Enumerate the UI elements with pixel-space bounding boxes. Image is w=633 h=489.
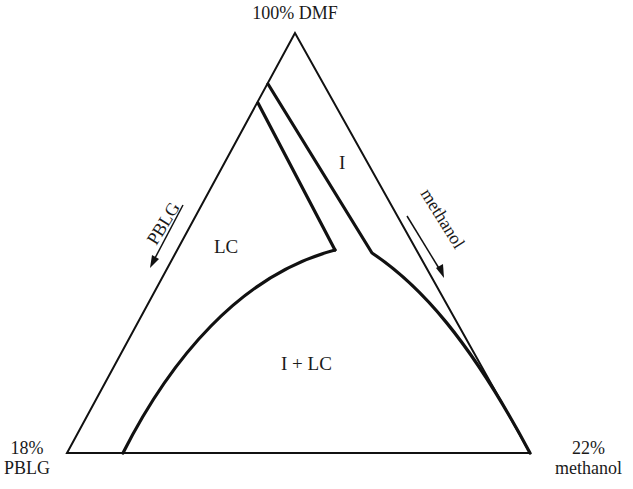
vertex-label-methanol-name: methanol bbox=[544, 459, 633, 479]
region-label-i-plus-lc: I + LC bbox=[281, 354, 332, 375]
vertex-label-methanol: 22% methanol bbox=[544, 439, 633, 479]
ternary-phase-diagram bbox=[0, 0, 633, 489]
region-label-i: I bbox=[339, 153, 345, 174]
vertex-label-pblg: 18% PBLG bbox=[0, 439, 54, 479]
i-boundary-curve bbox=[268, 84, 530, 453]
vertex-label-methanol-pct: 22% bbox=[544, 439, 633, 459]
region-label-lc: LC bbox=[214, 237, 238, 258]
vertex-label-dmf: 100% DMF bbox=[240, 4, 350, 24]
lc-boundary-lower-curve bbox=[123, 250, 335, 453]
vertex-label-pblg-pct: 18% bbox=[0, 439, 54, 459]
vertex-label-pblg-name: PBLG bbox=[0, 459, 54, 479]
